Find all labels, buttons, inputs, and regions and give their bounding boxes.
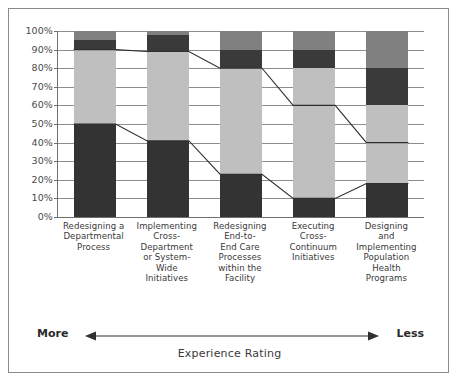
y-axis-tick-label: 0% [9,212,53,222]
double-headed-arrow-icon [85,329,379,343]
x-axis-category-label: DesigningandImplementingPopulationHealth… [350,221,423,283]
category-label-line: Cross- [130,231,203,241]
x-axis-category-label: ImplementingCross-Departmentor System-Wi… [130,221,203,283]
category-label-line: and [350,231,423,241]
category-label-line: Implementing [350,242,423,252]
x-axis-category-label: Redesigning aDepartmentalProcess [57,221,130,252]
category-label-line: Implementing [130,221,203,231]
category-label-line: Executing [277,221,350,231]
category-label-line: Population [350,252,423,262]
more-label: More [37,327,68,340]
y-axis-tick-label: 60% [9,100,53,110]
category-label-line: Initiatives [130,273,203,283]
category-label-line: Programs [350,273,423,283]
category-label-line: Redesigning a [57,221,130,231]
category-label-line: Processes [203,252,276,262]
lower-cumulative-line [74,124,409,198]
y-axis-tick-label: 70% [9,82,53,92]
y-axis-tick-mark [54,217,58,218]
category-label-line: Redesigning [203,221,276,231]
category-label-line: Cross- [277,231,350,241]
y-axis-tick-label: 80% [9,63,53,73]
y-axis-tick-label: 50% [9,119,53,129]
x-axis-category-labels: Redesigning aDepartmentalProcessImplemen… [57,221,423,321]
category-label-line: Initiatives [277,252,350,262]
category-label-line: End-to- [203,231,276,241]
experience-rating-caption: Experience Rating [9,347,450,360]
category-label-line: Health [350,263,423,273]
y-axis-tick-label: 40% [9,138,53,148]
category-label-line: or System- [130,252,203,262]
trend-line-overlay [58,31,424,217]
category-label-line: Designing [350,221,423,231]
category-label-line: End Care [203,242,276,252]
y-axis-tick-label: 10% [9,193,53,203]
x-axis-category-label: ExecutingCross-ContinuumInitiatives [277,221,350,263]
category-label-line: Wide [130,263,203,273]
less-label: Less [396,327,424,340]
category-label-line: within the [203,263,276,273]
experience-rating-axis: More Less [9,323,450,347]
y-axis-tick-label: 30% [9,156,53,166]
category-label-line: Process [57,242,130,252]
y-axis: 0%10%20%30%40%50%60%70%80%90%100% [9,9,57,241]
category-label-line: Departmental [57,231,130,241]
y-axis-tick-label: 90% [9,45,53,55]
category-label-line: Department [130,242,203,252]
plot-area [57,31,424,218]
plot-area-wrapper: 0%10%20%30%40%50%60%70%80%90%100% Redesi… [9,9,450,241]
category-label-line: Facility [203,273,276,283]
category-label-line: Continuum [277,242,350,252]
chart-frame: 0%10%20%30%40%50%60%70%80%90%100% Redesi… [8,8,449,373]
y-axis-tick-label: 100% [9,26,53,36]
x-axis-category-label: RedesigningEnd-to-End CareProcesseswithi… [203,221,276,283]
y-axis-tick-label: 20% [9,175,53,185]
